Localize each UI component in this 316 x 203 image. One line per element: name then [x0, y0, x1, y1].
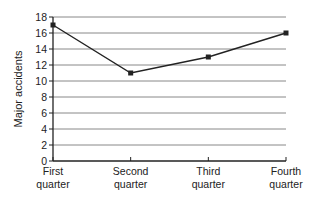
y-tick-label: 16	[35, 27, 47, 39]
y-tick-label: 4	[41, 123, 47, 135]
y-axis: 024681012141618	[35, 11, 53, 167]
x-axis: FirstquarterSecondquarterThirdquarterFou…	[36, 157, 303, 190]
data-point-marker	[206, 55, 211, 60]
y-tick-label: 18	[35, 11, 47, 23]
y-tick-label: 10	[35, 75, 47, 87]
x-tick-label: Thirdquarter	[192, 165, 226, 190]
y-tick-label: 8	[41, 91, 47, 103]
y-tick-label: 6	[41, 107, 47, 119]
y-tick-label: 2	[41, 139, 47, 151]
line-chart: 024681012141618 FirstquarterSecondquarte…	[0, 0, 316, 203]
x-tick-label: Secondquarter	[113, 165, 149, 190]
y-axis-title: Major accidents	[12, 50, 24, 128]
data-point-marker	[51, 23, 56, 28]
y-tick-label: 12	[35, 59, 47, 71]
x-tick-label: Firstquarter	[36, 165, 70, 190]
y-tick-label: 14	[35, 43, 47, 55]
data-point-marker	[128, 71, 133, 76]
data-point-marker	[284, 31, 289, 36]
gridlines	[53, 17, 286, 145]
x-tick-label: Fourthquarter	[269, 165, 303, 190]
